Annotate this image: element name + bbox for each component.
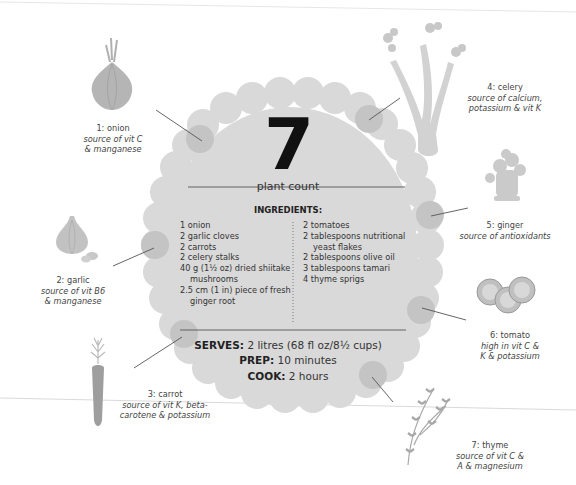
- caption-detail: K & potassium: [480, 351, 539, 361]
- caption-detail: source of vit B6: [41, 286, 105, 296]
- caption-title: 3: carrot: [110, 389, 220, 400]
- onion-icon: [92, 38, 133, 110]
- ingredients-right-column: 2 tomatoes 2 tablespoons nutritional yea…: [303, 220, 405, 285]
- page-edge-line: [0, 2, 576, 12]
- caption-title: 7: thyme: [440, 440, 540, 451]
- caption-detail: & manganese: [85, 144, 142, 154]
- caption-detail: A & magnesium: [457, 461, 522, 471]
- prep-label: PREP:: [239, 354, 274, 366]
- caption-detail: source of vit C: [83, 134, 142, 144]
- serves-value: 2 litres (68 fl oz/8½ cups): [247, 339, 381, 351]
- ingredients-left-column: 1 onion 2 garlic cloves 2 carrots 2 cele…: [180, 220, 291, 306]
- ingredient-item: 2.5 cm (1 in) piece of fresh: [180, 285, 291, 296]
- tomato-icon: [477, 277, 535, 313]
- caption-title: 1: onion: [68, 123, 158, 134]
- caption-detail: & manganese: [45, 296, 102, 306]
- caption-title: 5: ginger: [450, 220, 560, 231]
- ingredient-item: 1 onion: [180, 220, 291, 231]
- ingredient-item-cont: ginger root: [180, 296, 291, 307]
- cook-line: COOK: 2 hours: [0, 370, 576, 382]
- caption-title: 6: tomato: [460, 330, 560, 341]
- caption-title: 2: garlic: [28, 275, 118, 286]
- serves-label: SERVES:: [194, 339, 244, 351]
- caption-detail: source of vit K, beta-: [122, 400, 207, 410]
- ingredient-item: 40 g (1½ oz) dried shiitake: [180, 263, 291, 274]
- ingredient-item-cont: yeast flakes: [303, 242, 405, 253]
- caption-detail: high in vit C &: [481, 341, 539, 351]
- ingredient-item: 2 tablespoons nutritional: [303, 231, 405, 242]
- ingredient-item: 2 tablespoons olive oil: [303, 252, 405, 263]
- cook-label: COOK:: [248, 370, 286, 382]
- ingredient-item: 2 carrots: [180, 242, 291, 253]
- caption-detail: potassium & vit K: [469, 103, 541, 113]
- ingredient-item: 3 tablespoons tamari: [303, 263, 405, 274]
- ingredient-item: 4 thyme sprigs: [303, 274, 405, 285]
- ingredient-item: 2 garlic cloves: [180, 231, 291, 242]
- plant-count-label: plant count: [0, 180, 576, 193]
- caption-detail: source of antioxidants: [459, 231, 550, 241]
- caption-ginger: 5: ginger source of antioxidants: [450, 220, 560, 241]
- ingredient-item: 2 celery stalks: [180, 252, 291, 263]
- caption-title: 4: celery: [450, 82, 560, 93]
- caption-celery: 4: celery source of calcium, potassium &…: [450, 82, 560, 114]
- caption-thyme: 7: thyme source of vit C & A & magnesium: [440, 440, 540, 472]
- caption-carrot: 3: carrot source of vit K, beta- caroten…: [110, 389, 220, 421]
- garlic-icon: [56, 216, 98, 263]
- caption-detail: source of vit C &: [456, 451, 524, 461]
- caption-onion: 1: onion source of vit C & manganese: [68, 123, 158, 155]
- caption-detail: carotene & potassium: [120, 410, 210, 420]
- caption-tomato: 6: tomato high in vit C & K & potassium: [460, 330, 560, 362]
- caption-detail: source of calcium,: [468, 93, 543, 103]
- cook-value: 2 hours: [289, 370, 329, 382]
- caption-garlic: 2: garlic source of vit B6 & manganese: [28, 275, 118, 307]
- ingredient-item: 2 tomatoes: [303, 220, 405, 231]
- ingredient-item-cont: mushrooms: [180, 274, 291, 285]
- ingredients-heading: INGREDIENTS:: [0, 205, 576, 215]
- prep-value: 10 minutes: [278, 354, 337, 366]
- carrot-icon: [91, 338, 105, 426]
